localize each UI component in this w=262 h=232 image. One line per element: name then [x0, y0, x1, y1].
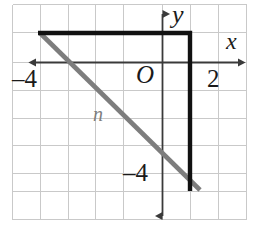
x-axis-label: x — [226, 29, 237, 53]
x-tick-label-2: 2 — [207, 66, 220, 91]
graph-canvas — [0, 0, 262, 232]
coordinate-grid-figure: y x O –4 2 –4 n — [0, 0, 262, 232]
y-tick-label-neg4: –4 — [123, 160, 148, 185]
line-n-label: n — [93, 104, 103, 124]
origin-label: O — [136, 62, 154, 87]
y-axis-label: y — [172, 2, 184, 28]
x-tick-label-neg4: –4 — [12, 66, 37, 91]
